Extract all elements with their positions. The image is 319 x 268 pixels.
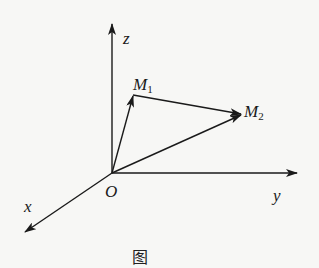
figure-caption: 图	[132, 244, 148, 268]
x-axis	[25, 173, 112, 232]
point-M1-label: M1	[133, 76, 153, 95]
vector-O-M2	[112, 115, 241, 173]
point-M1-base: M	[133, 75, 147, 94]
y-axis-label: y	[273, 187, 281, 204]
point-M2-label: M2	[244, 103, 264, 122]
vector-O-M1	[112, 96, 133, 173]
vector-M1-M2	[133, 95, 241, 114]
point-M2-base: M	[244, 102, 258, 121]
origin-label: O	[105, 183, 117, 200]
z-axis-label: z	[123, 30, 130, 47]
point-M2-subscript: 2	[258, 110, 264, 122]
x-axis-label: x	[24, 198, 32, 215]
point-M1-subscript: 1	[147, 83, 153, 95]
